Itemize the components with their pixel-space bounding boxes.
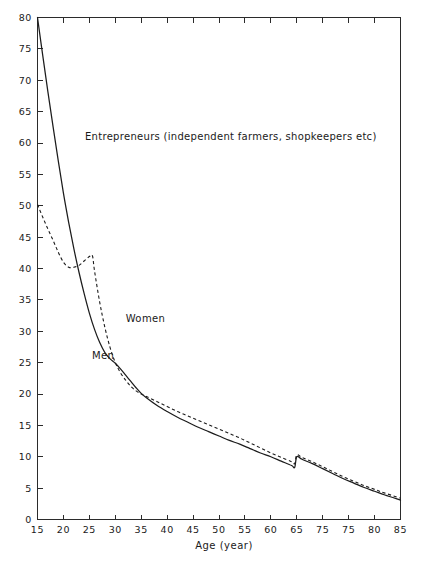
x-tick-label: 35 <box>135 524 148 535</box>
x-tick-label: 80 <box>368 524 381 535</box>
x-tick-label: 15 <box>31 524 44 535</box>
data-series-layer <box>38 18 401 501</box>
plot-frame <box>38 18 401 520</box>
entrepreneurs-line-chart: 05101520253035404550556065707580 1520253… <box>0 0 425 561</box>
x-tick-label: 25 <box>83 524 96 535</box>
series-line-men <box>38 18 401 501</box>
y-tick-label: 40 <box>19 263 32 274</box>
y-tick-label: 20 <box>19 388 32 399</box>
y-tick-label: 65 <box>19 106 32 117</box>
x-tick-label: 85 <box>394 524 407 535</box>
x-axis-ticks: 152025303540455055606575758085 <box>31 18 407 535</box>
x-tick-label: 20 <box>57 524 70 535</box>
y-tick-label: 35 <box>19 294 32 305</box>
y-tick-label: 25 <box>19 357 32 368</box>
series-label-women: Women <box>126 313 166 324</box>
x-tick-label: 65 <box>290 524 303 535</box>
y-tick-label: 50 <box>19 200 32 211</box>
y-tick-label: 10 <box>19 451 32 462</box>
x-tick-label: 40 <box>160 524 173 535</box>
x-tick-label: 45 <box>186 524 199 535</box>
x-axis-title: Age (year) <box>195 540 253 551</box>
x-tick-label: 75 <box>316 524 329 535</box>
y-tick-label: 80 <box>19 12 32 23</box>
y-tick-label: 30 <box>19 326 32 337</box>
y-tick-label: 75 <box>19 43 32 54</box>
y-tick-label: 5 <box>25 483 32 494</box>
series-label-men: Men <box>92 350 114 361</box>
x-tick-label: 60 <box>264 524 277 535</box>
chart-title: Entrepreneurs (independent farmers, shop… <box>85 131 377 142</box>
y-axis-ticks: 05101520253035404550556065707580 <box>19 12 43 525</box>
y-tick-label: 60 <box>19 137 32 148</box>
x-tick-label: 55 <box>238 524 251 535</box>
y-tick-label: 70 <box>19 75 32 86</box>
chart-figure: 05101520253035404550556065707580 1520253… <box>0 0 425 561</box>
axis-frame <box>38 18 401 520</box>
x-tick-label: 75 <box>342 524 355 535</box>
y-tick-label: 45 <box>19 232 32 243</box>
x-tick-label: 30 <box>109 524 122 535</box>
y-tick-label: 55 <box>19 169 32 180</box>
y-tick-label: 15 <box>19 420 32 431</box>
x-tick-label: 50 <box>212 524 225 535</box>
